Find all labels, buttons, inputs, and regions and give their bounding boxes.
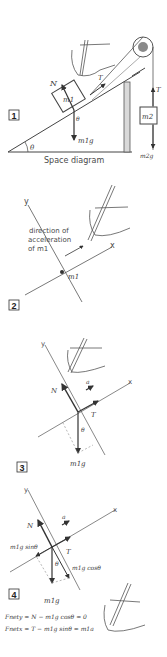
y-axis-line [45, 345, 105, 455]
parallel-component-arrow [36, 547, 52, 556]
normal-force-arrow [62, 384, 78, 412]
acceleration-arrow [86, 386, 93, 390]
hand-pencil-icon [104, 583, 145, 631]
svg-text:1: 1 [12, 111, 17, 121]
svg-text:N: N [50, 387, 58, 395]
equation-x: Fnetx = T − m1g sinθ = m1a [4, 625, 94, 633]
normal-force-arrow [38, 520, 52, 547]
hand-pencil-icon [88, 185, 130, 241]
svg-text:m1g cosθ: m1g cosθ [72, 564, 101, 572]
svg-text:m1: m1 [68, 273, 79, 281]
tension-arrow-1 [90, 84, 105, 95]
pulley-axle-icon [138, 42, 148, 52]
svg-text:x: x [110, 241, 115, 250]
panel-4-components: y x N a T m1g sinθ θ m1g cosθ m1g 4 Fnet… [4, 486, 145, 633]
svg-text:m1g: m1g [70, 460, 86, 468]
svg-text:x: x [128, 378, 132, 386]
svg-text:direction of: direction of [29, 227, 69, 235]
equation-y: Fnety = N − m1g cosθ = 0 [4, 613, 87, 621]
svg-text:m1g sinθ: m1g sinθ [10, 543, 38, 551]
hand-pencil-icon [68, 338, 106, 373]
svg-text:acceleration: acceleration [28, 236, 71, 244]
acceleration-direction-arrow [65, 246, 83, 256]
panel-2-axes: y x m1 direction of acceleration of m1 2 [9, 185, 130, 311]
m1-point [60, 270, 64, 274]
angle-label: θ [30, 144, 35, 152]
hand-pencil-icon [72, 40, 115, 76]
svg-text:T: T [91, 411, 97, 419]
svg-text:2: 2 [12, 301, 17, 311]
y-axis-line [28, 490, 80, 590]
space-diagram-caption: Space diagram [44, 156, 104, 165]
svg-text:T: T [156, 86, 162, 94]
svg-text:a: a [86, 378, 90, 385]
svg-text:of m1: of m1 [28, 245, 48, 253]
panel-1-space-diagram: θ m1 N T m1g θ m2 T m2g [8, 37, 162, 165]
svg-text:a: a [62, 513, 66, 520]
svg-text:N: N [49, 79, 58, 88]
acceleration-arrow [62, 521, 69, 525]
svg-text:4: 4 [12, 590, 17, 600]
svg-text:θ: θ [55, 560, 59, 567]
support-post [124, 82, 130, 152]
svg-text:y: y [24, 197, 29, 206]
svg-text:x: x [113, 506, 117, 514]
svg-text:3: 3 [20, 463, 25, 473]
panel-3-free-body: y x N a T θ m1g 3 [17, 338, 132, 473]
svg-text:θ: θ [76, 115, 80, 122]
svg-text:y: y [24, 486, 28, 494]
svg-text:θ: θ [81, 426, 85, 433]
svg-text:m1g: m1g [78, 137, 94, 145]
svg-text:T: T [66, 548, 72, 556]
svg-text:m1g: m1g [44, 597, 60, 605]
svg-text:m2g: m2g [140, 152, 154, 160]
svg-text:y: y [41, 340, 45, 348]
physics-diagram: θ m1 N T m1g θ m2 T m2g [0, 0, 167, 657]
svg-text:m2: m2 [142, 113, 154, 121]
svg-text:N: N [26, 522, 34, 530]
y-axis-line [28, 205, 82, 302]
